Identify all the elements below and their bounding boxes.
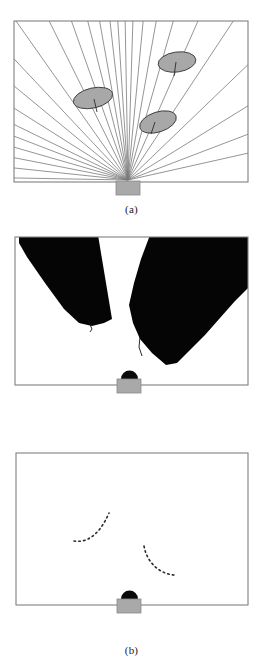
robot-c [117, 591, 141, 614]
robot-body [117, 599, 141, 613]
panel-b: (b) [0, 225, 263, 443]
sensor-ray-group [0, 0, 263, 180]
obstacle-upper-right [157, 49, 197, 74]
obstacle-left [71, 84, 114, 112]
shadow-contour-marks [88, 320, 142, 356]
detected-contour-group [74, 513, 174, 575]
shadow-right [129, 235, 249, 365]
robot-dome [121, 591, 138, 600]
robot-body [117, 379, 141, 393]
contour-left [74, 513, 109, 541]
sensor-ray [128, 0, 165, 180]
sensor-ray [128, 0, 196, 180]
obstacle-group-a [71, 49, 197, 137]
robot-a [116, 181, 140, 195]
room-frame-c [16, 453, 248, 605]
obstacle-center [137, 107, 179, 138]
caption-a: (a) [0, 203, 263, 215]
figure-container: (a) [0, 0, 263, 667]
obstacle-ellipse [157, 49, 197, 74]
panel-c: (c) [0, 443, 263, 667]
shadow-group [19, 235, 249, 365]
panel-c-graphic [0, 443, 263, 643]
panel-b-graphic [0, 225, 263, 425]
sensor-ray [128, 0, 263, 180]
room-frame-a [14, 21, 248, 182]
robot-body [116, 181, 140, 195]
sensor-ray [128, 0, 140, 180]
robot-dome [121, 371, 138, 380]
shadow-left [19, 235, 112, 326]
obstacle-ellipse [137, 107, 179, 138]
panel-a-graphic [0, 0, 263, 200]
panel-a: (a) [0, 0, 263, 225]
sensor-ray [31, 0, 128, 180]
robot-b [117, 371, 141, 394]
contour-right [144, 546, 174, 575]
obstacle-ellipse [71, 84, 114, 112]
